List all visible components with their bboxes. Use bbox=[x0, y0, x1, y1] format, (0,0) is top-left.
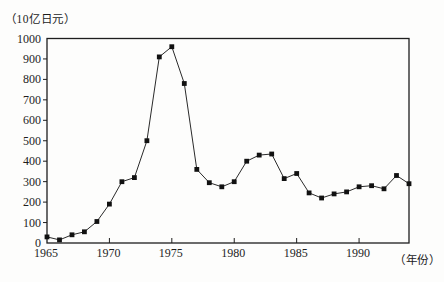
y-tick-label: 400 bbox=[23, 154, 41, 168]
data-point bbox=[145, 138, 150, 143]
data-line bbox=[47, 47, 409, 240]
data-point bbox=[382, 186, 387, 191]
y-tick-label: 700 bbox=[23, 93, 41, 107]
y-tick-label: 900 bbox=[23, 52, 41, 66]
y-tick-label: 200 bbox=[23, 195, 41, 209]
data-point bbox=[107, 202, 112, 207]
data-point bbox=[407, 181, 412, 186]
y-tick-label: 100 bbox=[23, 216, 41, 230]
y-tick-label: 1000 bbox=[17, 32, 41, 46]
data-point bbox=[132, 175, 137, 180]
x-tick-label: 1990 bbox=[346, 246, 370, 260]
x-tick-label: 1985 bbox=[284, 246, 308, 260]
x-tick-label: 1980 bbox=[221, 246, 245, 260]
axes-frame bbox=[47, 39, 409, 244]
y-tick-label: 300 bbox=[23, 175, 41, 189]
data-point bbox=[207, 180, 212, 185]
data-point bbox=[232, 179, 237, 184]
data-point bbox=[332, 192, 337, 197]
y-tick-label: 600 bbox=[23, 113, 41, 127]
y-tick-label: 800 bbox=[23, 72, 41, 86]
data-point bbox=[369, 183, 374, 188]
line-chart: 0100200300400500600700800900100019651970… bbox=[0, 0, 444, 282]
data-point bbox=[269, 152, 274, 157]
x-tick-label: 1965 bbox=[34, 246, 58, 260]
x-tick-label: 1975 bbox=[159, 246, 183, 260]
data-point bbox=[319, 196, 324, 201]
data-point bbox=[157, 55, 162, 60]
data-point bbox=[45, 235, 50, 240]
data-point bbox=[244, 159, 249, 164]
data-point bbox=[120, 179, 125, 184]
data-point bbox=[70, 232, 75, 237]
data-point bbox=[307, 191, 312, 196]
x-axis-unit-label: （年份） bbox=[394, 251, 440, 267]
data-point bbox=[357, 184, 362, 189]
y-tick-label: 500 bbox=[23, 134, 41, 148]
y-axis-unit-label: （10亿日元） bbox=[5, 10, 75, 26]
data-point bbox=[257, 153, 262, 158]
x-tick-label: 1970 bbox=[96, 246, 120, 260]
data-point bbox=[282, 176, 287, 181]
data-point bbox=[219, 184, 224, 189]
data-point bbox=[95, 219, 100, 224]
data-point bbox=[394, 173, 399, 178]
data-point bbox=[182, 81, 187, 86]
data-point bbox=[294, 171, 299, 176]
data-point bbox=[344, 190, 349, 195]
data-point bbox=[57, 238, 62, 243]
data-point bbox=[169, 44, 174, 49]
chart-figure: 0100200300400500600700800900100019651970… bbox=[0, 0, 444, 282]
data-point bbox=[82, 229, 87, 234]
data-point bbox=[194, 167, 199, 172]
